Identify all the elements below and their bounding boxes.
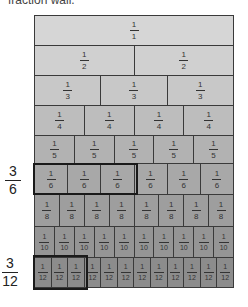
fraction-label: 13 (196, 80, 205, 101)
fraction-label: 110 (159, 233, 169, 252)
fraction-label: 112 (71, 263, 81, 282)
numerator: 1 (190, 263, 194, 271)
numerator: 1 (107, 263, 111, 271)
fraction-bar (142, 210, 151, 211)
numerator: 1 (43, 233, 47, 241)
denominator: 3 (198, 92, 202, 101)
numerator: 1 (219, 200, 223, 209)
fraction-cell: 112 (118, 258, 135, 287)
fraction-bar (117, 210, 126, 211)
numerator: 1 (57, 263, 61, 271)
numerator: 1 (132, 80, 136, 89)
denominator: 12 (2, 274, 18, 289)
fraction-bar (105, 120, 114, 121)
fraction-cell: 13 (168, 76, 233, 105)
fraction-cell: 14 (135, 106, 185, 135)
fraction-label: 112 (204, 263, 214, 282)
fraction-bar (129, 149, 138, 150)
numerator: 1 (107, 110, 111, 119)
numerator: 1 (70, 200, 74, 209)
denominator: 10 (80, 244, 88, 252)
fraction-label: 14 (154, 110, 163, 131)
numerator: 1 (223, 263, 227, 271)
fraction-bar (104, 272, 114, 273)
fraction-label: 110 (79, 233, 89, 252)
fraction-label: 16 (146, 169, 155, 190)
fraction-cell: 112 (68, 258, 85, 287)
denominator: 6 (115, 181, 119, 190)
denominator: 5 (52, 151, 56, 160)
fraction-cell: 18 (60, 195, 85, 226)
fraction-cell: 110 (174, 227, 194, 257)
fraction-cell: 14 (35, 106, 85, 135)
fraction-cell: 16 (101, 164, 134, 194)
numerator: 1 (115, 169, 119, 178)
denominator: 8 (219, 212, 223, 221)
fraction-bar (59, 242, 69, 243)
numerator: 1 (222, 233, 226, 241)
fraction-cell: 16 (201, 164, 233, 194)
fraction-label: 18 (142, 200, 151, 221)
fraction-label: 16 (47, 169, 56, 190)
fraction-bar (199, 242, 209, 243)
denominator: 2 (182, 62, 186, 71)
fraction-cell: 18 (110, 195, 135, 226)
fraction-label: 110 (59, 233, 69, 252)
fraction-cell: 110 (55, 227, 75, 257)
denominator: 8 (119, 212, 123, 221)
numerator: 1 (92, 139, 96, 148)
fraction-label: 18 (117, 200, 126, 221)
denominator: 6 (49, 181, 53, 190)
fraction-cell: 112 (168, 258, 185, 287)
fraction-bar (196, 90, 205, 91)
denominator: 8 (169, 212, 173, 221)
numerator: 1 (162, 233, 166, 241)
fraction-cell: 16 (68, 164, 101, 194)
fraction-cell: 13 (101, 76, 167, 105)
denominator: 12 (105, 274, 113, 282)
numerator: 1 (182, 233, 186, 241)
numerator: 1 (57, 110, 61, 119)
fraction-bar (129, 90, 138, 91)
fraction-cell: 15 (154, 136, 194, 163)
fraction-label: 112 (220, 263, 230, 282)
fraction-bar (154, 120, 163, 121)
numerator: 1 (194, 200, 198, 209)
fraction-label: 16 (113, 169, 122, 190)
numerator: 1 (157, 110, 161, 119)
fraction-bar (204, 120, 213, 121)
numerator: 1 (62, 233, 66, 241)
denominator: 1 (132, 32, 136, 41)
fraction-label: 110 (219, 233, 229, 252)
fraction-label: 112 (154, 263, 164, 282)
fraction-label: 15 (169, 139, 178, 160)
fraction-label: 110 (39, 233, 49, 252)
denominator: 3 (65, 92, 69, 101)
fraction-cell: 112 (101, 258, 118, 287)
fraction-label: 110 (99, 233, 109, 252)
denominator: 12 (122, 274, 130, 282)
denominator: 6 (182, 181, 186, 190)
fraction-bar (209, 149, 218, 150)
fraction-cell: 112 (35, 258, 52, 287)
fraction-bar (217, 210, 226, 211)
fraction-label: 15 (90, 139, 99, 160)
fraction-bar (54, 272, 64, 273)
denominator: 6 (82, 181, 86, 190)
numerator: 1 (198, 80, 202, 89)
fraction-label: 110 (179, 233, 189, 252)
denominator: 10 (140, 244, 148, 252)
fraction-bar (220, 272, 230, 273)
fraction-cell: 13 (35, 76, 101, 105)
fraction-row-8: 1818181818181818 (34, 194, 234, 226)
denominator: 10 (200, 244, 208, 252)
fraction-label: 18 (167, 200, 176, 221)
fraction-label: 15 (50, 139, 59, 160)
numerator: 1 (202, 233, 206, 241)
fraction-bar (192, 210, 201, 211)
fraction-bar (80, 179, 89, 180)
denominator: 3 (132, 92, 136, 101)
numerator: 1 (45, 200, 49, 209)
fraction-bar (121, 272, 131, 273)
denominator: 12 (172, 274, 180, 282)
